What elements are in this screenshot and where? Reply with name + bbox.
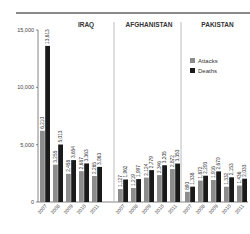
bar-deaths — [175, 164, 180, 202]
bar-deaths — [97, 167, 102, 202]
bar-value-label: 2,293 — [203, 161, 208, 173]
y-tick-label: 5,000 — [20, 142, 34, 148]
x-tick-label: 2007 — [36, 203, 48, 216]
bar-value-label: 3,654 — [71, 146, 76, 158]
bar-deaths — [58, 145, 63, 202]
legend-swatch-attacks — [190, 58, 195, 63]
x-tick-label: 2009 — [140, 203, 152, 216]
bar-value-label: 3,255 — [53, 150, 58, 162]
panel-title: PAKISTAN — [201, 21, 234, 28]
x-tick-label: 2010 — [153, 203, 165, 216]
legend-label: Deaths — [198, 68, 217, 74]
legend-swatch-deaths — [190, 68, 195, 73]
bar-attacks — [170, 169, 175, 202]
x-tick-label: 2009 — [207, 203, 219, 216]
bar-value-label: 1,997 — [136, 165, 141, 177]
bar-value-label: 2,670 — [216, 157, 221, 169]
bar-attacks — [185, 192, 190, 202]
bar-attacks — [66, 174, 71, 202]
x-tick-label: 2008 — [127, 203, 139, 216]
bar-attacks — [40, 131, 45, 202]
y-tick-label: 0 — [31, 199, 34, 205]
bar-deaths — [229, 177, 234, 202]
bar-deaths — [149, 170, 154, 202]
x-tick-label: 2008 — [194, 203, 206, 216]
x-tick-label: 2007 — [181, 203, 193, 216]
bar-value-label: 5,013 — [58, 130, 63, 142]
bar-attacks — [144, 178, 149, 202]
bar-deaths — [123, 180, 128, 202]
bar-attacks — [92, 176, 97, 202]
y-tick-label: 10,000 — [17, 84, 34, 90]
x-tick-label: 2007 — [114, 203, 126, 216]
bar-value-label: 3,205 — [162, 151, 167, 163]
bar-value-label: 13,613 — [45, 29, 50, 44]
bar-attacks — [157, 175, 162, 202]
x-tick-label: 2010 — [75, 203, 87, 216]
bar-deaths — [216, 171, 221, 202]
bar-attacks — [224, 187, 229, 202]
bar-deaths — [45, 46, 50, 202]
x-tick-label: 2009 — [62, 203, 74, 216]
bar-deaths — [71, 160, 76, 202]
bar-attacks — [53, 165, 58, 202]
bar-attacks — [211, 180, 216, 202]
bar-value-label: 2,458 — [66, 159, 71, 171]
bar-value-label: 1,962 — [123, 165, 128, 177]
x-tick-label: 2011 — [233, 203, 245, 215]
x-tick-label: 2011 — [166, 203, 178, 215]
bar-value-label: 3,063 — [97, 153, 102, 165]
bar-deaths — [84, 163, 89, 202]
bar-deaths — [190, 187, 195, 202]
bar-deaths — [162, 165, 167, 202]
legend-label: Attacks — [198, 58, 218, 64]
bar-attacks — [237, 186, 242, 202]
x-tick-label: 2008 — [49, 203, 61, 216]
bar-deaths — [136, 179, 141, 202]
x-tick-label: 2011 — [88, 203, 100, 215]
bar-value-label: 2,153 — [229, 163, 234, 175]
bar-attacks — [118, 189, 123, 202]
panel-title: IRAQ — [78, 21, 94, 29]
panel-title: AFGHANISTAN — [126, 21, 173, 28]
y-tick-label: 15,000 — [17, 27, 34, 33]
bar-value-label: 2,779 — [149, 156, 154, 168]
bar-value-label: 6,210 — [40, 116, 45, 128]
bar-deaths — [203, 176, 208, 202]
grouped-bar-chart: 05,00010,00015,000IRAQ6,21013,61320073,2… — [0, 0, 250, 234]
bar-value-label: 2,033 — [242, 164, 247, 176]
bar-value-label: 1,338 — [190, 172, 195, 184]
x-tick-label: 2010 — [220, 203, 232, 216]
bar-value-label: 3,353 — [175, 149, 180, 161]
bar-value-label: 3,363 — [84, 149, 89, 161]
bar-attacks — [131, 188, 136, 202]
bar-attacks — [79, 171, 84, 202]
bar-attacks — [198, 181, 203, 202]
bar-deaths — [242, 179, 247, 202]
